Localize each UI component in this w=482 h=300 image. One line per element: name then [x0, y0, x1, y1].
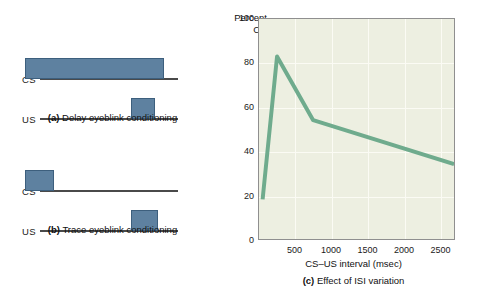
y-tick-label: 40 — [244, 146, 254, 156]
x-tick-label: 1500 — [357, 245, 377, 255]
y-tick-label: 60 — [244, 102, 254, 112]
percent-cr-line — [263, 56, 454, 199]
trace-cs-baseline — [40, 190, 178, 192]
trace-cs-pulse — [25, 170, 54, 191]
plot-area — [258, 18, 455, 240]
x-tick-label: 1000 — [321, 245, 341, 255]
delay-caption-text: Delay eyeblink conditioning — [59, 112, 177, 123]
delay-caption-letter: (a) — [48, 112, 60, 123]
chart-caption-text: Effect of ISI variation — [314, 275, 404, 286]
y-tick-label: 100 — [239, 13, 254, 23]
delay-cs-track: CS — [0, 46, 225, 80]
trace-cs-track: CS — [0, 158, 225, 192]
x-tick-label: 2000 — [394, 245, 414, 255]
trace-caption: (b) Trace eyeblink conditioning — [0, 224, 225, 235]
delay-cs-pulse — [25, 58, 165, 79]
isi-line-chart-panel: Percent CR 020406080100 5001000150020002… — [225, 0, 482, 300]
trace-caption-text: Trace eyeblink conditioning — [60, 224, 177, 235]
x-axis-title: CS–US interval (msec) — [225, 258, 482, 269]
plot-wrapper: 020406080100 5001000150020002500 — [258, 18, 455, 240]
chart-caption-letter: (c) — [303, 275, 315, 286]
timing-diagrams-panel: CS US (a) Delay eyeblink conditioning CS… — [0, 0, 225, 300]
y-tick-label: 20 — [244, 191, 254, 201]
y-tick-label: 80 — [244, 57, 254, 67]
x-tick-label: 500 — [287, 245, 302, 255]
chart-caption: (c) Effect of ISI variation — [225, 275, 482, 286]
data-series-svg — [259, 19, 454, 239]
y-tick-label: 0 — [249, 235, 254, 245]
x-tick-label: 2500 — [430, 245, 450, 255]
trace-caption-letter: (b) — [48, 224, 60, 235]
delay-caption: (a) Delay eyeblink conditioning — [0, 112, 225, 123]
